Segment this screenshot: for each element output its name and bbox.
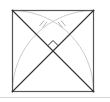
square-diagonals-diagram (0, 0, 110, 102)
vertex-bottom-left (12, 91, 14, 93)
bottom-divider (0, 97, 110, 98)
right-angle-marker (48, 41, 59, 47)
vertex-bottom-right (93, 91, 95, 93)
vertex-top-left (12, 10, 14, 12)
vertex-top-right (93, 10, 95, 12)
tick-marks-right (58, 21, 66, 28)
